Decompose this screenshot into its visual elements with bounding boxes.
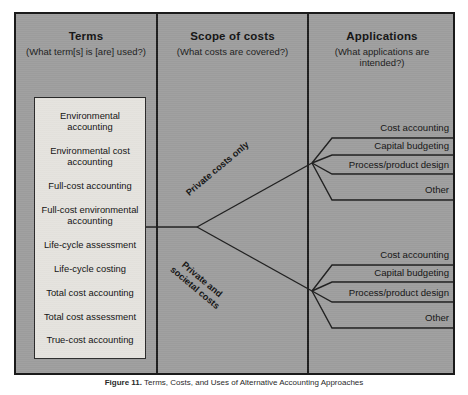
application-lower-capital-budgeting: Capital budgeting [316,267,449,278]
term-item: Life-cycle assessment [39,239,141,250]
term-item: Full-cost accounting [39,180,141,191]
figure-caption: Figure 11. Terms, Costs, and Uses of Alt… [0,378,468,388]
application-upper-cost-accounting: Cost accounting [316,122,449,133]
application-lower-process-product-design: Process/product design [312,287,449,298]
term-item: Total cost assessment [39,311,141,322]
diagram-frame: Terms (What term[s] is [are] used?) Scop… [14,12,455,375]
application-lower-other: Other [316,312,449,323]
term-item: Environmental accounting [39,110,141,132]
term-item: Environmental cost accounting [39,145,141,167]
application-upper-process-product-design: Process/product design [312,159,449,170]
term-item: Life-cycle costing [39,263,141,274]
application-lower-cost-accounting: Cost accounting [316,249,449,260]
figure-root: Terms (What term[s] is [are] used?) Scop… [0,0,468,395]
term-item: Total cost accounting [39,287,141,298]
figure-caption-text: Terms, Costs, and Uses of Alternative Ac… [144,378,363,387]
term-item: Full-cost environmental accounting [39,204,141,226]
branch-line-lower [197,227,312,291]
application-upper-capital-budgeting: Capital budgeting [316,140,449,151]
figure-caption-label: Figure 11. [105,378,142,387]
application-upper-other: Other [316,184,449,195]
term-item: True-cost accounting [39,334,141,345]
